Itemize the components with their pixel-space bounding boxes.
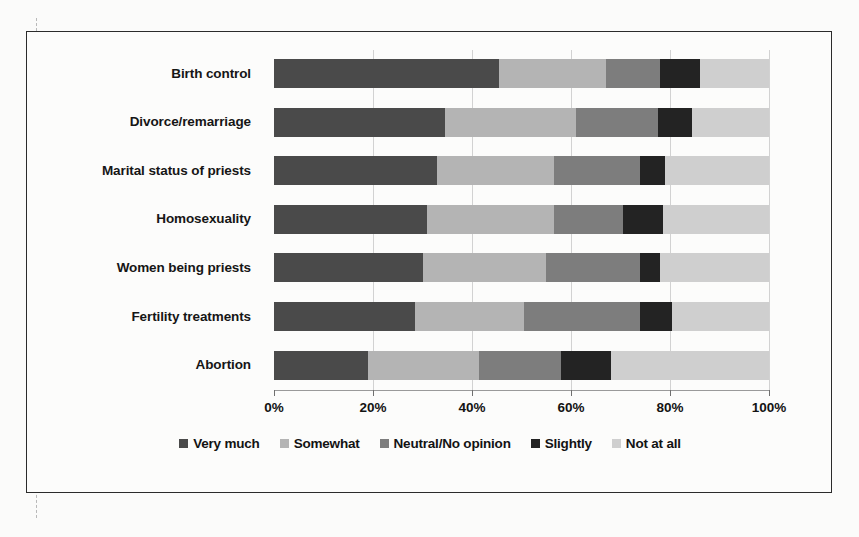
bar-segment[interactable] (640, 253, 660, 282)
bar-segment[interactable] (274, 302, 415, 331)
category-label: Homosexuality (15, 211, 251, 226)
x-axis-tick-label: 40% (458, 400, 485, 415)
category-label: Fertility treatments (15, 309, 251, 324)
category-label: Abortion (15, 357, 251, 372)
x-axis-tick (274, 390, 275, 396)
legend-label: Very much (193, 436, 260, 451)
bar-segment[interactable] (611, 351, 769, 380)
chart-legend: Very muchSomewhatNeutral/No opinionSligh… (27, 436, 833, 451)
bar-segment[interactable] (274, 156, 437, 185)
x-axis-line (274, 390, 770, 391)
legend-label: Not at all (626, 436, 681, 451)
bar-segment[interactable] (415, 302, 524, 331)
bar-row (274, 108, 769, 137)
bar-segment[interactable] (274, 59, 499, 88)
bar-segment[interactable] (499, 59, 605, 88)
bar-segment[interactable] (554, 205, 623, 234)
chart-plot-wrapper: Birth controlDivorce/remarriageMarital s… (27, 32, 833, 494)
x-axis-tick (571, 390, 572, 396)
legend-item[interactable]: Very much (179, 436, 260, 451)
bar-segment[interactable] (423, 253, 547, 282)
bar-segment[interactable] (274, 205, 427, 234)
bar-segment[interactable] (546, 253, 640, 282)
legend-item[interactable]: Neutral/No opinion (380, 436, 511, 451)
bar-segment[interactable] (445, 108, 576, 137)
bar-segment[interactable] (640, 156, 665, 185)
legend-label: Somewhat (294, 436, 360, 451)
bar-segment[interactable] (700, 59, 769, 88)
legend-swatch-icon (531, 439, 540, 448)
bar-segment[interactable] (606, 59, 660, 88)
legend-swatch-icon (179, 439, 188, 448)
x-axis-tick (472, 390, 473, 396)
category-label: Birth control (15, 66, 251, 81)
bar-segment[interactable] (524, 302, 640, 331)
category-axis-labels: Birth controlDivorce/remarriageMarital s… (27, 50, 267, 390)
bar-segment[interactable] (427, 205, 553, 234)
bar-row (274, 205, 769, 234)
bar-segment[interactable] (274, 351, 368, 380)
x-axis-tick (670, 390, 671, 396)
legend-item[interactable]: Not at all (612, 436, 681, 451)
gridline (769, 50, 770, 390)
bar-segment[interactable] (479, 351, 561, 380)
bar-segment[interactable] (640, 302, 672, 331)
bar-row (274, 59, 769, 88)
legend-swatch-icon (280, 439, 289, 448)
legend-label: Slightly (545, 436, 592, 451)
x-axis-tick-label: 80% (656, 400, 683, 415)
category-label: Women being priests (15, 260, 251, 275)
bar-segment[interactable] (665, 156, 769, 185)
legend-swatch-icon (380, 439, 389, 448)
bar-segment[interactable] (623, 205, 663, 234)
legend-label: Neutral/No opinion (394, 436, 511, 451)
bar-segment[interactable] (554, 156, 641, 185)
x-axis-tick (769, 390, 770, 396)
bar-segment[interactable] (576, 108, 658, 137)
bar-row (274, 156, 769, 185)
bar-row (274, 302, 769, 331)
bar-row (274, 351, 769, 380)
x-axis-tick-label: 60% (557, 400, 584, 415)
x-axis-tick-label: 20% (359, 400, 386, 415)
x-axis-tick (373, 390, 374, 396)
x-axis-tick-label: 0% (264, 400, 284, 415)
bar-segment[interactable] (274, 253, 423, 282)
bar-segment[interactable] (660, 59, 700, 88)
bar-segment[interactable] (672, 302, 769, 331)
bar-segment[interactable] (437, 156, 553, 185)
bar-segment[interactable] (658, 108, 693, 137)
legend-item[interactable]: Somewhat (280, 436, 360, 451)
category-label: Divorce/remarriage (15, 114, 251, 129)
bar-segment[interactable] (561, 351, 611, 380)
legend-item[interactable]: Slightly (531, 436, 592, 451)
x-axis-tick-label: 100% (752, 400, 787, 415)
category-label: Marital status of priests (15, 163, 251, 178)
bar-segment[interactable] (660, 253, 769, 282)
legend-swatch-icon (612, 439, 621, 448)
bar-row (274, 253, 769, 282)
bar-segment[interactable] (274, 108, 445, 137)
plot-area: 0%20%40%60%80%100% (274, 50, 769, 390)
bar-segment[interactable] (692, 108, 769, 137)
bar-segment[interactable] (368, 351, 479, 380)
chart-frame: Birth controlDivorce/remarriageMarital s… (26, 31, 832, 493)
bar-segment[interactable] (663, 205, 769, 234)
